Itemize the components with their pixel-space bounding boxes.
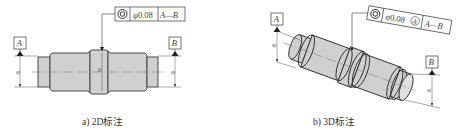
shaft-3d <box>277 25 422 109</box>
dia-mark-a: φ <box>272 41 276 49</box>
figure-2d: φ φ0.08 A—B A φ B <box>14 7 185 94</box>
caption-3d: b) 3D标注 <box>313 114 355 128</box>
figure-3d: φ0.08 A A—B A φ B <box>271 6 452 109</box>
dia-mark-collar: φ <box>95 68 103 72</box>
datum-b-label: B <box>429 57 435 67</box>
feature-control-frame-3d: φ0.08 A A—B <box>367 6 452 34</box>
datum-reference: A—B <box>159 10 178 20</box>
dia-mark-b: φ <box>427 86 431 94</box>
datum-a-label: A <box>273 14 280 24</box>
feature-control-frame-2d: φ0.08 A—B <box>115 7 185 21</box>
dia-mark-b: φ <box>171 68 175 76</box>
datum-b-2d: B φ <box>158 37 181 87</box>
datum-a-label: A <box>16 38 23 48</box>
drawing-canvas: φ φ0.08 A—B A φ B <box>0 0 456 132</box>
tolerance-value: φ0.08 <box>133 10 153 20</box>
dia-mark-a: φ <box>16 68 20 76</box>
caption-2d: a) 2D标注 <box>82 114 123 128</box>
datum-a-2d: A φ <box>14 37 38 87</box>
datum-b-label: B <box>172 38 178 48</box>
